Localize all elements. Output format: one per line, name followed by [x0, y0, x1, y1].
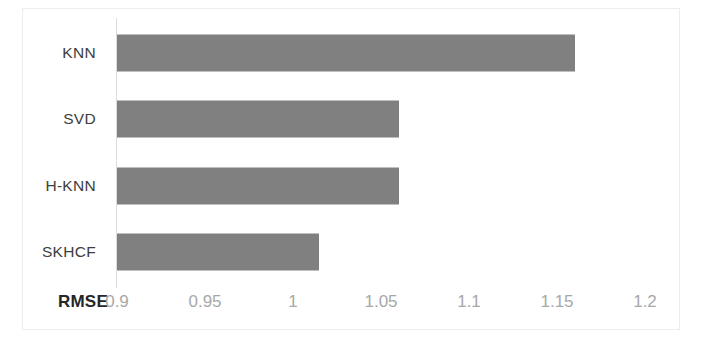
x-tick-1: 0.95	[188, 292, 221, 312]
bar-h-knn	[117, 167, 399, 204]
x-tick-6: 1.2	[633, 292, 657, 312]
x-tick-5: 1.15	[540, 292, 573, 312]
x-tick-4: 1.1	[457, 292, 481, 312]
category-label-skhcf: SKHCF	[42, 243, 96, 261]
bar-knn	[117, 35, 575, 72]
x-tick-3: 1.05	[364, 292, 397, 312]
category-label-h-knn: H-KNN	[45, 177, 96, 195]
plot-area	[117, 20, 682, 285]
x-tick-2: 1	[288, 292, 297, 312]
x-tick-0: 0.9	[105, 292, 129, 312]
bar-skhcf	[117, 233, 319, 270]
rmse-bar-chart: KNN SVD H-KNN SKHCF RMSE 0.9 0.95 1 1.05…	[0, 0, 705, 342]
bar-svd	[117, 101, 399, 138]
category-axis-labels: KNN SVD H-KNN SKHCF	[0, 20, 110, 285]
category-label-knn: KNN	[62, 44, 96, 62]
x-axis-title: RMSE	[58, 292, 108, 312]
category-label-svd: SVD	[63, 110, 96, 128]
x-axis-tick-labels: RMSE 0.9 0.95 1 1.05 1.1 1.15 1.2	[0, 292, 705, 322]
